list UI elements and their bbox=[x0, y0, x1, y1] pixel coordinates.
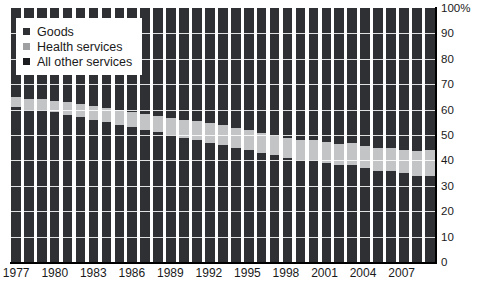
segment-health-services bbox=[231, 128, 241, 148]
x-tick-1995: 1995 bbox=[234, 266, 261, 280]
y-tick-60: 60 bbox=[441, 105, 454, 116]
y-axis-line bbox=[435, 7, 437, 263]
bar-1990 bbox=[179, 8, 189, 262]
y-axis-tick-labels: 0102030405060708090100% bbox=[441, 0, 501, 270]
segment-all-other-services bbox=[257, 8, 267, 133]
segment-goods bbox=[270, 155, 280, 262]
y-tick-100: 100% bbox=[441, 3, 470, 14]
segment-health-services bbox=[412, 151, 422, 175]
bar-1993 bbox=[218, 8, 228, 262]
legend-item-all-other-services: All other services bbox=[23, 54, 132, 69]
segment-health-services bbox=[425, 150, 435, 175]
segment-goods bbox=[179, 138, 189, 262]
bar-2006 bbox=[386, 8, 396, 262]
y-tick-30: 30 bbox=[441, 181, 454, 192]
segment-all-other-services bbox=[309, 8, 319, 140]
segment-goods bbox=[309, 160, 319, 262]
segment-health-services bbox=[373, 148, 383, 171]
x-tick-2001: 2001 bbox=[311, 266, 338, 280]
segment-goods bbox=[115, 125, 125, 262]
segment-health-services bbox=[153, 116, 163, 133]
segment-all-other-services bbox=[205, 8, 215, 123]
bar-1988 bbox=[153, 8, 163, 262]
legend-item-goods: Goods bbox=[23, 24, 132, 39]
segment-goods bbox=[257, 153, 267, 262]
segment-goods bbox=[63, 115, 73, 262]
segment-all-other-services bbox=[412, 8, 422, 151]
x-tick-2004: 2004 bbox=[350, 266, 377, 280]
bar-2008 bbox=[412, 8, 422, 262]
bar-1999 bbox=[296, 8, 306, 262]
segment-goods bbox=[140, 130, 150, 262]
segment-all-other-services bbox=[347, 8, 357, 143]
segment-goods bbox=[322, 163, 332, 262]
segment-health-services bbox=[244, 130, 254, 150]
bar-2007 bbox=[399, 8, 409, 262]
segment-health-services bbox=[270, 136, 280, 156]
bar-2000 bbox=[309, 8, 319, 262]
segment-goods bbox=[192, 140, 202, 262]
chart-legend: Goods Health services All other services bbox=[16, 18, 142, 75]
segment-health-services bbox=[127, 112, 137, 128]
segment-all-other-services bbox=[334, 8, 344, 144]
segment-all-other-services bbox=[386, 8, 396, 148]
segment-all-other-services bbox=[270, 8, 280, 136]
segment-goods bbox=[347, 165, 357, 262]
x-tick-1980: 1980 bbox=[41, 266, 68, 280]
segment-health-services bbox=[218, 125, 228, 145]
legend-swatch-all-other-services-icon bbox=[23, 58, 30, 65]
bar-1998 bbox=[283, 8, 293, 262]
segment-all-other-services bbox=[296, 8, 306, 140]
legend-label-goods: Goods bbox=[37, 25, 74, 39]
segment-health-services bbox=[334, 144, 344, 166]
segment-health-services bbox=[115, 110, 125, 125]
bar-1997 bbox=[270, 8, 280, 262]
segment-health-services bbox=[102, 108, 112, 123]
segment-health-services bbox=[166, 118, 176, 135]
bar-2001 bbox=[322, 8, 332, 262]
segment-goods bbox=[412, 176, 422, 262]
bar-1995 bbox=[244, 8, 254, 262]
y-tick-40: 40 bbox=[441, 155, 454, 166]
y-tick-20: 20 bbox=[441, 206, 454, 217]
segment-goods bbox=[244, 150, 254, 262]
segment-all-other-services bbox=[153, 8, 163, 116]
x-axis-line bbox=[10, 262, 437, 264]
y-tick-90: 90 bbox=[441, 28, 454, 39]
segment-health-services bbox=[179, 120, 189, 138]
segment-all-other-services bbox=[218, 8, 228, 125]
segment-health-services bbox=[76, 104, 86, 118]
segment-health-services bbox=[296, 140, 306, 160]
segment-goods bbox=[360, 168, 370, 262]
legend-item-health-services: Health services bbox=[23, 39, 132, 54]
x-tick-1998: 1998 bbox=[273, 266, 300, 280]
bar-1994 bbox=[231, 8, 241, 262]
bar-1991 bbox=[192, 8, 202, 262]
legend-swatch-goods-icon bbox=[23, 28, 30, 35]
legend-label-all-other-services: All other services bbox=[37, 55, 132, 69]
segment-health-services bbox=[386, 148, 396, 171]
segment-all-other-services bbox=[399, 8, 409, 150]
x-axis-tick-labels: 1977198019831986198919921995199820012004… bbox=[0, 266, 502, 290]
segment-health-services bbox=[140, 114, 150, 130]
y-tick-70: 70 bbox=[441, 79, 454, 90]
segment-all-other-services bbox=[322, 8, 332, 142]
segment-goods bbox=[37, 110, 47, 262]
legend-label-health-services: Health services bbox=[37, 40, 122, 54]
segment-health-services bbox=[257, 133, 267, 153]
segment-goods bbox=[425, 176, 435, 262]
bar-2004 bbox=[360, 8, 370, 262]
y-tick-50: 50 bbox=[441, 130, 454, 141]
segment-all-other-services bbox=[244, 8, 254, 130]
segment-goods bbox=[386, 171, 396, 262]
segment-goods bbox=[89, 120, 99, 262]
bar-2005 bbox=[373, 8, 383, 262]
segment-goods bbox=[231, 148, 241, 262]
segment-goods bbox=[153, 132, 163, 262]
x-tick-1977: 1977 bbox=[3, 266, 30, 280]
segment-all-other-services bbox=[192, 8, 202, 121]
segment-health-services bbox=[322, 142, 332, 163]
segment-goods bbox=[76, 117, 86, 262]
segment-health-services bbox=[283, 138, 293, 158]
segment-goods bbox=[296, 160, 306, 262]
